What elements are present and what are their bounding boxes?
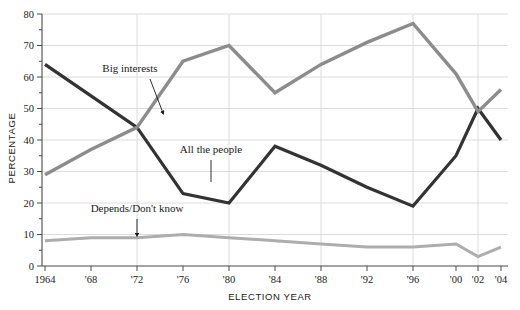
y-tick-label: 50 [24,103,35,114]
x-axis-title: ELECTION YEAR [228,291,312,302]
y-tick-label: 60 [24,72,35,83]
chart-canvas: 01020304050607080 1964'68'72'76'80'84'88… [0,0,520,310]
y-tick-label: 0 [29,261,34,272]
series-line-all-the-people [45,64,501,206]
percentage-by-election-year-line-chart: 01020304050607080 1964'68'72'76'80'84'88… [0,0,520,310]
y-axis-title: PERCENTAGE [6,113,17,184]
x-tick-label: '76 [177,274,189,285]
y-tick-label: 40 [24,135,35,146]
x-tick-label: 1964 [35,274,57,285]
y-tick-label: 30 [24,166,35,177]
x-tick-label: '68 [85,274,97,285]
x-tick-label: '72 [131,274,143,285]
y-tick-label: 10 [24,229,35,240]
y-tick-label: 80 [24,9,35,20]
x-tick-label: '92 [361,274,373,285]
y-tick-label: 20 [24,198,35,209]
x-tick-label: '00 [450,274,462,285]
y-tick-label: 70 [24,40,35,51]
x-tick-label: '96 [407,274,419,285]
x-tick-label: '80 [223,274,235,285]
y-axis-ticks-group: 01020304050607080 [24,9,43,272]
x-tick-label: '04 [495,274,508,285]
x-tick-label: '88 [315,274,327,285]
x-tick-label: '84 [269,274,282,285]
x-axis-ticks-group: 1964'68'72'76'80'84'88'92'96'00'02'04 [35,266,508,285]
series-line-big-interests [45,23,501,174]
annotation-label: Depends/Don't know [91,202,184,214]
x-tick-label: '02 [472,274,484,285]
annotation-label: All the people [180,143,242,155]
series-line-depends-don-t-know [45,235,501,257]
annotation-label: Big interests [102,62,157,74]
